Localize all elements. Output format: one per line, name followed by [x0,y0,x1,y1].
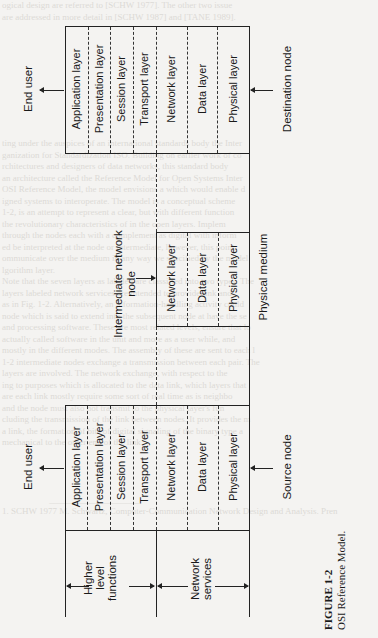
dest-physical-layer: Physical layer [227,39,239,139]
dest-network-layer: Network layer [165,39,177,139]
bracket-mid-edge [156,531,157,617]
figure-caption: FIGURE 1-2 OSI Reference Model. [322,514,350,630]
layer-divider [187,233,188,326]
src-end-user-label: End user [22,427,34,507]
figure-number: FIGURE 1-2 [322,570,334,630]
dest-data-layer: Data layer [196,39,208,139]
source-node-arrow [251,468,273,469]
end-user-arrow [40,90,64,91]
bracket-right-edge [249,531,250,617]
src-application-layer: Application layer [70,417,82,517]
dest-end-user-label: End user [22,49,34,129]
source-node-label: Source node [281,417,293,517]
dest-presentation-layer: Presentation layer [93,39,105,139]
layer-divider [187,406,188,530]
layer-divider [133,406,134,530]
layer-divider [218,406,219,530]
physical-medium-label: Physical medium [257,227,269,327]
src-network-layer: Network layer [165,417,177,517]
destination-node-arrow [251,90,273,91]
src-session-layer: Session layer [115,417,127,517]
layer-divider [218,233,219,326]
layer-divider [87,406,88,530]
network-boundary-line [156,154,157,232]
layer-divider [187,27,188,153]
src-data-layer: Data layer [196,417,208,517]
src-presentation-layer: Presentation layer [93,417,105,517]
int-physical-layer: Physical layer [227,228,239,328]
layer-divider [156,27,157,153]
higher-level-functions-label: Higher level functions [82,549,120,607]
layer-divider [133,27,134,153]
layer-divider [156,406,157,530]
intermediate-node-arrow [136,278,155,279]
network-services-label: Network services [189,548,215,610]
layer-divider [217,27,218,153]
figure-title: OSI Reference Model. [335,531,347,630]
src-transport-layer: Transport layer [138,417,150,517]
intermediate-node-label: Intermediate network node [112,224,140,344]
dest-session-layer: Session layer [115,39,127,139]
layer-divider [110,27,111,153]
int-data-layer: Data layer [196,228,208,328]
higher-bracket-arrow-right [129,586,154,587]
int-network-layer: Network layer [165,228,177,328]
dest-application-layer: Application layer [70,39,82,139]
network-bracket-arrow-left [158,586,188,587]
destination-node-label: Destination node [281,39,293,139]
src-physical-layer: Physical layer [227,417,239,517]
network-bracket-arrow-right [215,586,248,587]
layer-divider [88,27,89,153]
network-boundary-line [156,327,157,405]
end-user-arrow [40,468,64,469]
physical-medium-line [249,154,250,232]
bracket-left-edge [65,531,66,617]
physical-medium-line [249,327,250,405]
layer-divider [110,406,111,530]
dest-transport-layer: Transport layer [138,39,150,139]
